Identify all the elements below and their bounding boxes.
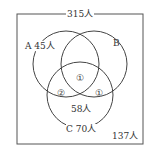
region-c-only: 58人 [71, 104, 91, 114]
universe-label: 315人 [66, 9, 94, 19]
region-abc-top: ① [76, 73, 84, 83]
region-bc: ① [95, 88, 103, 98]
outside-label: 137人 [112, 131, 138, 141]
set-a-label: A 45人 [25, 41, 55, 51]
set-b-label: B [113, 38, 120, 48]
region-ac: ② [57, 88, 65, 98]
set-c-label: C 70人 [66, 124, 96, 134]
